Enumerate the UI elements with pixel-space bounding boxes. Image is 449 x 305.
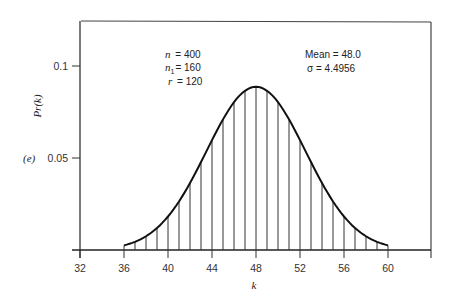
n-symbol: n [165,48,171,60]
sigma-label: σ = 4.4956 [307,63,356,74]
binomial-distribution-chart: 0.050.1 3236404448525660 n = 400 n1= 160… [0,0,449,305]
statistics-annotation: Mean = 48.0 σ = 4.4956 [305,49,361,74]
plot-frame [72,21,431,258]
n-value: = 400 [175,49,201,60]
x-tick-label: 56 [338,262,350,274]
x-axis-ticks: 3236404448525660 [74,250,394,274]
svg-text:n = 400: n = 400 [165,48,201,60]
n1-value: = 160 [175,62,201,73]
r-value: = 120 [177,76,203,87]
mean-label: Mean = 48.0 [305,49,361,60]
x-tick-label: 36 [118,262,130,274]
x-tick-label: 52 [294,262,306,274]
svg-text:r = 120: r = 120 [168,75,203,87]
x-tick-label: 32 [74,262,86,274]
x-tick-label: 48 [250,262,262,274]
x-axis-label: k [252,279,258,291]
n1-subscript: 1 [171,68,175,75]
x-tick-label: 44 [206,262,218,274]
probability-stems [124,87,388,250]
y-tick-label: 0.1 [53,60,68,72]
x-tick-label: 40 [162,262,174,274]
svg-text:n1= 160: n1= 160 [165,61,201,75]
x-tick-label: 60 [382,262,394,274]
parameters-annotation: n = 400 n1= 160 r = 120 [165,48,203,87]
panel-label: (e) [23,152,36,165]
y-tick-label: 0.05 [48,152,69,164]
y-axis-label: Pr(k) [31,94,44,119]
y-axis-ticks: 0.050.1 [48,60,80,164]
r-symbol: r [168,75,173,87]
